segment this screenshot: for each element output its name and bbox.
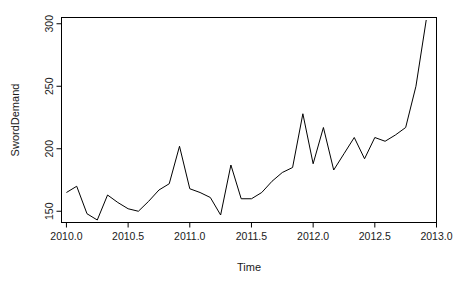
x-tick-label: 2012.5 <box>359 230 391 242</box>
x-tick-label: 2013.0 <box>420 230 452 242</box>
x-tick-label: 2011.5 <box>236 230 267 242</box>
y-tick-label: 300 <box>43 15 55 33</box>
x-tick-label: 2010.5 <box>112 230 144 242</box>
y-tick-label: 200 <box>43 140 55 158</box>
r-plot-canvas: 150200250300 2010.02010.52011.02011.5201… <box>0 0 461 285</box>
y-axis-tick-labels: 150200250300 <box>43 15 55 220</box>
y-axis-ticks <box>57 24 62 212</box>
x-axis-ticks <box>66 223 436 228</box>
timeseries-chart: 150200250300 2010.02010.52011.02011.5201… <box>0 0 461 285</box>
x-axis-tick-labels: 2010.02010.52011.02011.52012.02012.52013… <box>50 230 452 242</box>
y-axis-title: SwordDemand <box>9 84 21 157</box>
x-tick-label: 2011.0 <box>174 230 205 242</box>
y-tick-label: 250 <box>43 77 55 95</box>
y-tick-label: 150 <box>43 202 55 220</box>
plot-area-background <box>61 17 437 223</box>
x-tick-label: 2010.0 <box>50 230 82 242</box>
x-axis-title: Time <box>237 261 261 273</box>
x-tick-label: 2012.0 <box>297 230 329 242</box>
